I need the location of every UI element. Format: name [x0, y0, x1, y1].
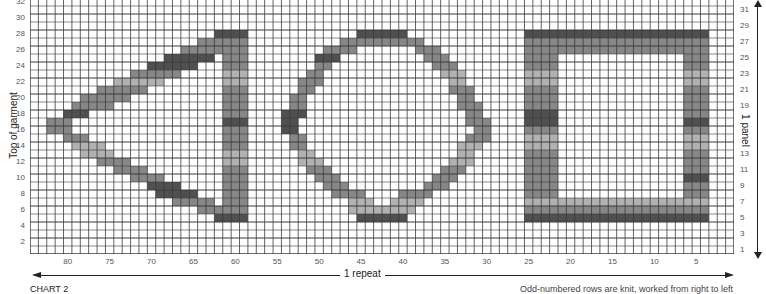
- row-label-right: 13: [740, 149, 749, 158]
- column-label: 65: [183, 257, 203, 266]
- row-label-right: 11: [740, 165, 748, 174]
- row-label-left: 6: [5, 205, 25, 214]
- column-label: 50: [309, 257, 329, 266]
- row-label-left: 28: [5, 29, 25, 38]
- row-label-right: 21: [740, 85, 749, 94]
- top-of-garment-label: Top of garment: [8, 91, 19, 161]
- arrow-up-icon: [754, 0, 762, 7]
- row-label-right: 31: [740, 5, 749, 14]
- row-label-left: 30: [5, 13, 25, 22]
- chart-grid-svg: [30, 0, 734, 254]
- column-label: 35: [435, 257, 455, 266]
- footer-note: Odd-numbered rows are knit, worked from …: [520, 284, 733, 294]
- row-label-right: 7: [740, 197, 744, 206]
- row-label-right: 1: [740, 245, 744, 254]
- row-label-right: 19: [740, 101, 749, 110]
- repeat-label: 1 repeat: [340, 268, 385, 279]
- row-label-left: 10: [5, 173, 25, 182]
- row-label-left: 4: [5, 221, 25, 230]
- chart-title: CHART 2: [30, 284, 68, 294]
- column-label: 55: [267, 257, 287, 266]
- row-label-left: 32: [5, 0, 25, 6]
- column-label: 25: [519, 257, 539, 266]
- arrow-down-icon: [754, 252, 762, 259]
- column-label: 80: [58, 257, 78, 266]
- row-label-left: 8: [5, 189, 25, 198]
- column-label: 5: [686, 257, 706, 266]
- column-label: 45: [351, 257, 371, 266]
- panel-label: 1 panel: [740, 112, 751, 149]
- column-label: 70: [142, 257, 162, 266]
- row-label-right: 5: [740, 213, 744, 222]
- row-label-left: 26: [5, 45, 25, 54]
- knitting-chart-grid: [30, 0, 734, 254]
- row-label-right: 29: [740, 21, 749, 30]
- row-label-right: 23: [740, 69, 749, 78]
- column-label: 15: [602, 257, 622, 266]
- column-label: 40: [393, 257, 413, 266]
- row-label-right: 25: [740, 53, 749, 62]
- row-label-right: 9: [740, 181, 744, 190]
- column-label: 10: [644, 257, 664, 266]
- arrow-left-icon: [32, 272, 41, 278]
- column-label: 30: [477, 257, 497, 266]
- row-label-left: 2: [5, 237, 25, 246]
- row-label-right: 27: [740, 37, 749, 46]
- arrow-right-icon: [725, 272, 734, 278]
- row-label-left: 24: [5, 61, 25, 70]
- column-label: 75: [100, 257, 120, 266]
- column-label: 20: [561, 257, 581, 266]
- row-label-right: 3: [740, 229, 744, 238]
- row-label-left: 22: [5, 77, 25, 86]
- column-label: 60: [225, 257, 245, 266]
- panel-arrow-line: [757, 2, 758, 256]
